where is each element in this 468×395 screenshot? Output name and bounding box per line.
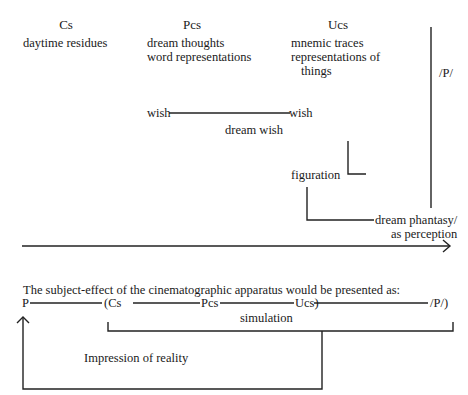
sequence-pcs: Pcs [201, 296, 218, 310]
figuration-to-phantasy-line [307, 187, 374, 220]
dream-phantasy-label: dream phantasy/ [375, 213, 457, 227]
sequence-ucs: Ucs) [295, 296, 319, 310]
figuration-label: figuration [291, 168, 340, 182]
pcs-item: word representations [147, 50, 251, 64]
dream-wish-to-figuration-line [348, 141, 366, 174]
ucs-heading: Ucs [318, 18, 358, 32]
cs-heading: Cs [46, 18, 86, 32]
pcs-item: dream thoughts [147, 36, 224, 50]
p-heading: /P/ [439, 66, 453, 80]
cs-item: daytime residues [23, 36, 107, 50]
wish-right-label: wish [289, 106, 313, 120]
dream-wish-label: dream wish [225, 123, 283, 137]
as-perception-label: as perception [391, 227, 457, 241]
sequence-cs: (Cs [104, 296, 121, 310]
ucs-item: things [301, 64, 332, 78]
sequence-p: P [22, 296, 29, 310]
ucs-item: mnemic traces [291, 36, 364, 50]
wish-left-label: wish [147, 106, 171, 120]
sequence-p-end: /P/) [430, 296, 448, 310]
caption: The subject-effect of the cinematographi… [23, 283, 400, 297]
simulation-label: simulation [240, 311, 293, 325]
impression-label: Impression of reality [84, 351, 188, 365]
pcs-heading: Pcs [172, 18, 212, 32]
ucs-item: representations of [291, 50, 380, 64]
